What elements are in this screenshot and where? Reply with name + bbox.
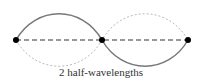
diagram-caption: 2 half-wavelengths bbox=[0, 66, 202, 78]
node-right bbox=[185, 37, 191, 43]
node-middle bbox=[99, 37, 105, 43]
node-left bbox=[13, 37, 19, 43]
